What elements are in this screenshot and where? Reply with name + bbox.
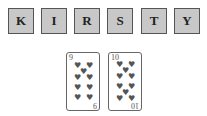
letter-tile[interactable]: T <box>141 8 167 34</box>
playing-card-9-hearts[interactable]: 9 ♥ ♥ ♥ ♥ ♥ ♥ ♥ ♥ ♥ 9 <box>66 52 100 111</box>
tile-letter: I <box>51 13 56 29</box>
letter-tile[interactable]: I <box>41 8 67 34</box>
heart-icon: ♥ <box>74 84 81 92</box>
tile-letter: T <box>150 13 159 29</box>
heart-icon: ♥ <box>116 73 123 81</box>
heart-icon: ♥ <box>74 74 81 82</box>
tile-letter: K <box>16 13 26 29</box>
card-rank: 9 <box>69 54 73 62</box>
card-rank: 10 <box>131 101 139 109</box>
tile-letter: Y <box>182 13 191 29</box>
letter-tile[interactable]: R <box>74 8 100 34</box>
tile-letter: S <box>116 13 123 29</box>
heart-icon: ♥ <box>128 73 135 81</box>
playing-card-10-hearts[interactable]: 10 ♥ ♥ ♥ ♥ ♥ ♥ ♥ ♥ ♥ ♥ 10 <box>108 52 142 111</box>
letter-tile[interactable]: Y <box>174 8 200 34</box>
heart-icon: ♥ <box>86 84 93 92</box>
tile-letter: R <box>82 13 91 29</box>
card-rank: 9 <box>93 101 97 109</box>
heart-icon: ♥ <box>74 94 81 102</box>
letter-tile[interactable]: K <box>8 8 34 34</box>
heart-icon: ♥ <box>86 74 93 82</box>
letter-tile[interactable]: S <box>107 8 133 34</box>
heart-icon: ♥ <box>116 95 123 103</box>
